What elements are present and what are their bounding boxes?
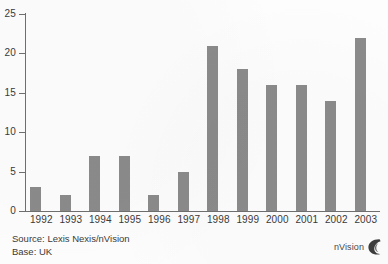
chart-page: 0510152025 19921993199419951996199719981… [0,0,388,264]
bar-2001 [296,85,307,211]
y-axis-tick [19,211,25,212]
y-axis-tick [19,132,25,133]
bar-1996 [148,195,159,211]
x-axis-label-2003: 2003 [346,214,386,225]
nvision-swirl-icon [366,238,382,256]
source-note: Source: Lexis Nexis/nVision [12,233,130,246]
bar-1999 [237,69,248,211]
bar-2000 [266,85,277,211]
bar-1998 [207,46,218,211]
plot-area [26,14,380,211]
bar-1995 [119,156,130,211]
y-axis-tick-label: 0 [0,206,16,216]
bar-1994 [89,156,100,211]
bar-1997 [178,172,189,211]
y-axis-tick [19,53,25,54]
y-axis-tick [19,14,25,15]
nvision-logo-text: nVision [334,243,364,252]
bar-1992 [30,187,41,211]
y-axis-tick-label: 5 [0,167,16,177]
y-axis-tick [19,172,25,173]
bar-2003 [355,38,366,211]
nvision-logo: nVision [334,238,382,256]
bar-2002 [325,101,336,211]
base-note: Base: UK [12,246,130,259]
y-axis-tick-label: 10 [0,127,16,137]
x-axis-line [25,211,380,212]
y-axis-tick-label: 15 [0,88,16,98]
chart-footnotes: Source: Lexis Nexis/nVision Base: UK [12,233,130,258]
y-axis-tick-label: 20 [0,48,16,58]
y-axis-tick [19,93,25,94]
bar-chart: 0510152025 19921993199419951996199719981… [0,0,388,226]
bar-1993 [60,195,71,211]
y-axis-tick-label: 25 [0,9,16,19]
